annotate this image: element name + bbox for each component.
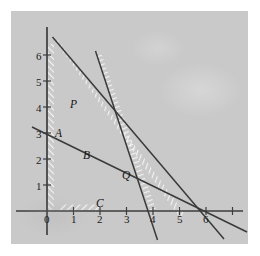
x-axis-label-5: 5	[177, 214, 183, 225]
x-axis-label-2: 2	[97, 214, 103, 225]
point-label-B: B	[83, 150, 90, 162]
point-label-C: C	[96, 198, 104, 210]
y-axis-label-1: 1	[36, 181, 42, 192]
y-axis-label-3: 3	[36, 129, 42, 140]
hatch-x-axis	[60, 205, 100, 211]
plot-area	[11, 11, 248, 244]
x-axis-label-4: 4	[150, 214, 156, 225]
x-axis-label-0: 0	[44, 214, 50, 225]
figure-container: 0 1 2 3 4 5 6 1 2 3 4 5 6 P A B Q C	[0, 0, 260, 256]
line-shallow	[32, 127, 247, 232]
x-axis-label-6: 6	[203, 214, 209, 225]
hatch-medium-line	[52, 36, 185, 217]
point-label-Q: Q	[122, 170, 130, 182]
point-label-P: P	[70, 99, 77, 111]
x-axis-label-3: 3	[124, 214, 130, 225]
y-axis-label-2: 2	[36, 155, 42, 166]
y-axis-label-6: 6	[36, 51, 42, 62]
point-label-A: A	[55, 128, 62, 140]
y-axis-label-4: 4	[36, 103, 42, 114]
y-axis-label-5: 5	[36, 77, 42, 88]
x-axis-label-1: 1	[71, 214, 77, 225]
graph-svg	[11, 11, 248, 244]
